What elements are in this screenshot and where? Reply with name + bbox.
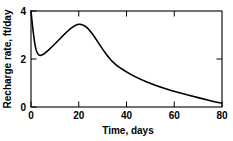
y-axis-title: Recharge rate, ft/day (2, 9, 13, 108)
x-tick-label-40: 40 (121, 110, 133, 121)
y-tick-label-2: 2 (20, 54, 26, 65)
x-tick-label-80: 80 (216, 110, 228, 121)
top-axis-ticks (79, 11, 175, 17)
x-tick-label-0: 0 (28, 110, 34, 121)
x-axis-ticks (31, 102, 222, 108)
x-tick-label-60: 60 (169, 110, 181, 121)
y-tick-label-0: 0 (20, 102, 26, 113)
chart-figure: 0 20 40 60 80 0 2 4 Time, days Recharge … (0, 0, 233, 141)
x-tick-label-20: 20 (73, 110, 85, 121)
x-axis-title: Time, days (102, 125, 154, 136)
plot-frame (31, 11, 222, 107)
recharge-rate-line-chart: 0 20 40 60 80 0 2 4 Time, days Recharge … (0, 0, 233, 141)
y-tick-label-4: 4 (20, 6, 26, 17)
recharge-rate-curve (31, 11, 222, 103)
